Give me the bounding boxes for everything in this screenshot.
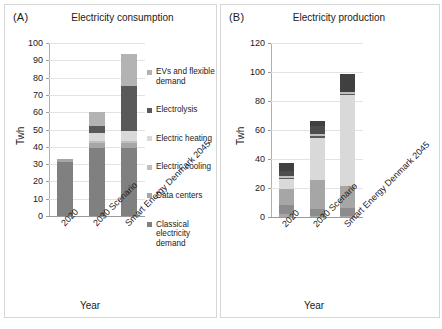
bar-segment — [89, 112, 105, 126]
bar-segment — [310, 138, 325, 180]
panel-a-electricity-consumption: (A) Electricity consumption Twh EVs and … — [4, 4, 217, 318]
bar-2030-scenario[interactable] — [310, 121, 325, 217]
y-tick-label: 40 — [5, 142, 43, 152]
y-tick-mark — [46, 95, 49, 96]
legend-item[interactable]: Electrolysis — [147, 105, 215, 115]
bar-segment — [89, 126, 105, 133]
y-tick-label: 60 — [223, 125, 265, 135]
panel-a-x-axis-title: Year — [45, 300, 135, 311]
gridline — [49, 43, 145, 44]
y-tick-mark — [46, 216, 49, 217]
y-tick-label: 10 — [5, 194, 43, 204]
legend-swatch-icon — [147, 136, 152, 141]
y-tick-mark — [268, 130, 271, 131]
panel-a-title: Electricity consumption — [5, 12, 216, 23]
bar-segment — [310, 126, 325, 134]
bar-segment — [340, 74, 355, 91]
bar-segment — [89, 148, 105, 216]
legend-swatch-icon — [147, 165, 152, 170]
y-tick-mark — [268, 217, 271, 218]
gridline — [271, 43, 363, 44]
panel-b-title: Electricity production — [221, 12, 439, 23]
y-tick-label: 20 — [223, 183, 265, 193]
y-tick-label: 80 — [223, 96, 265, 106]
y-tick-label: 100 — [5, 38, 43, 48]
y-tick-label: 0 — [223, 212, 265, 222]
gridline — [271, 72, 363, 73]
bar-segment — [121, 131, 137, 141]
y-tick-mark — [268, 159, 271, 160]
figure-container: (A) Electricity consumption Twh EVs and … — [0, 0, 442, 329]
bar-segment — [279, 179, 294, 188]
y-tick-label: 70 — [5, 90, 43, 100]
legend-item[interactable]: EVs and flexible demand — [147, 67, 215, 86]
y-tick-label: 20 — [5, 176, 43, 186]
y-tick-mark — [46, 112, 49, 113]
bar-segment — [310, 180, 325, 209]
legend-swatch-icon — [147, 70, 152, 75]
y-tick-label: 60 — [5, 107, 43, 117]
y-tick-mark — [46, 130, 49, 131]
y-tick-label: 30 — [5, 159, 43, 169]
y-tick-mark — [46, 60, 49, 61]
y-tick-label: 50 — [5, 125, 43, 135]
legend-label: EVs and flexible demand — [156, 67, 215, 86]
panel-b-electricity-production: (B) Electricity production Twh ImportPow… — [220, 4, 440, 318]
bar-segment — [340, 95, 355, 186]
legend-swatch-icon — [147, 222, 152, 227]
bar-segment — [89, 133, 105, 141]
legend-label: Classical electricity demand — [156, 220, 215, 249]
legend-item[interactable]: Classical electricity demand — [147, 220, 215, 249]
y-tick-mark — [46, 164, 49, 165]
y-tick-mark — [268, 101, 271, 102]
y-tick-mark — [46, 199, 49, 200]
y-tick-mark — [46, 78, 49, 79]
y-tick-label: 0 — [5, 211, 43, 221]
bar-segment — [279, 189, 294, 206]
legend-label: Electrolysis — [156, 105, 197, 115]
legend-swatch-icon — [147, 108, 152, 113]
y-tick-mark — [268, 72, 271, 73]
bar-2030-scenario[interactable] — [89, 112, 105, 216]
bar-segment — [279, 163, 294, 171]
y-tick-label: 90 — [5, 55, 43, 65]
bar-segment — [121, 54, 137, 86]
y-tick-mark — [46, 43, 49, 44]
y-tick-mark — [268, 188, 271, 189]
y-tick-label: 120 — [223, 38, 265, 48]
y-tick-label: 100 — [223, 67, 265, 77]
y-tick-label: 80 — [5, 73, 43, 83]
y-tick-label: 40 — [223, 154, 265, 164]
y-tick-mark — [46, 147, 49, 148]
y-tick-mark — [46, 181, 49, 182]
y-tick-mark — [268, 43, 271, 44]
bar-segment — [121, 86, 137, 131]
panel-b-x-axis-title: Year — [269, 300, 359, 311]
